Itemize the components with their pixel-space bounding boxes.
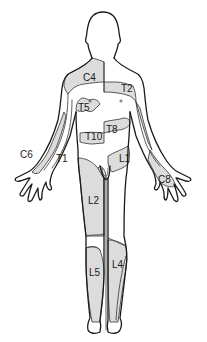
- label-t1: T1: [56, 153, 68, 164]
- label-l5: L5: [89, 267, 101, 278]
- label-c6: C6: [20, 149, 33, 160]
- label-t8: T8: [106, 124, 118, 135]
- label-c8: C8: [158, 174, 171, 185]
- label-t5: T5: [78, 102, 90, 113]
- label-l1: L1: [119, 153, 131, 164]
- label-t2: T2: [121, 83, 133, 94]
- nipple-right-marker: [120, 100, 122, 102]
- label-l2: L2: [88, 195, 100, 206]
- dermatome-figure: C4 T2 T5 T8 T10 L1 C6 T1 C8 L2 L5 L4: [0, 0, 207, 342]
- label-t10: T10: [85, 131, 103, 142]
- label-l4: L4: [112, 259, 124, 270]
- head-outline: [86, 12, 121, 58]
- label-c4: C4: [83, 72, 96, 83]
- body-diagram-svg: C4 T2 T5 T8 T10 L1 C6 T1 C8 L2 L5 L4: [0, 0, 207, 342]
